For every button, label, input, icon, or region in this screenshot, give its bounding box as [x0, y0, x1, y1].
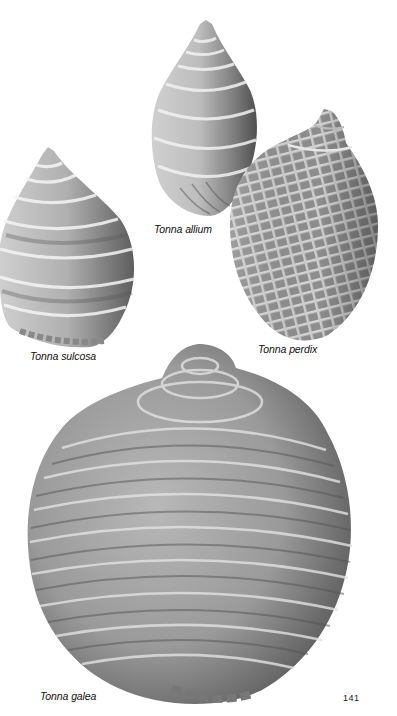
tonna-perdix-illustration [228, 105, 383, 345]
page-number: 141 [343, 693, 360, 703]
tonna-sulcosa-illustration [0, 145, 140, 350]
caption-tonna-allium: Tonna allium [154, 223, 212, 235]
tonna-galea-illustration [22, 338, 362, 708]
caption-tonna-galea: Tonna galea [40, 690, 96, 702]
book-page: Tonna allium [0, 0, 397, 716]
